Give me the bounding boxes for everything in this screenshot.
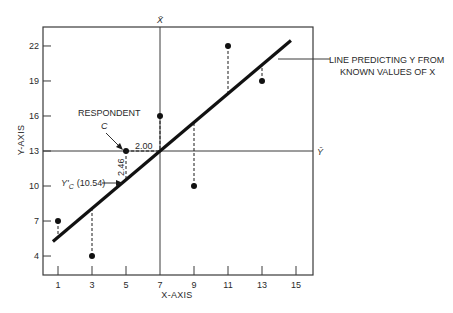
y-tick-label: 19	[29, 76, 39, 86]
respondent-id-label: C	[101, 121, 108, 131]
y-tick-label: 16	[29, 111, 39, 121]
y-tick-label: 7	[34, 216, 39, 226]
x-tick-label: 3	[89, 280, 94, 290]
data-point	[55, 218, 61, 224]
data-point	[225, 43, 231, 49]
data-point	[89, 253, 95, 259]
scatter-regression-chart: 471013161922 13579111315 X̄ Ȳ RESPONDENT…	[0, 0, 453, 313]
x-tick-label: 1	[55, 280, 60, 290]
regression-label-line1: LINE PREDICTING Y FROM	[329, 55, 444, 65]
x-tick-label: 5	[123, 280, 128, 290]
data-point	[259, 78, 265, 84]
x-mean-label: X̄	[156, 15, 164, 25]
predicted-value-label: Y'C(10.54)	[61, 178, 105, 190]
y-axis-title: Y-AXIS	[16, 125, 26, 155]
x-axis-ticks: 13579111315	[55, 266, 301, 290]
respondent-label: RESPONDENT	[78, 108, 141, 118]
x-tick-label: 9	[191, 280, 196, 290]
predicted-value: (10.54)	[77, 178, 106, 188]
regression-label-line2: KNOWN VALUES OF X	[340, 67, 435, 77]
x-tick-label: 15	[291, 280, 301, 290]
y-mean-label: Ȳ	[317, 147, 324, 157]
y-tick-label: 22	[29, 41, 39, 51]
x-tick-label: 13	[257, 280, 267, 290]
x-distance-label: 2.00	[135, 141, 153, 151]
y-distance-label: 2.46	[116, 158, 126, 176]
data-point	[157, 113, 163, 119]
x-tick-label: 11	[223, 280, 232, 290]
x-tick-label: 7	[157, 280, 162, 290]
y-tick-label: 13	[29, 146, 39, 156]
regression-line	[53, 40, 291, 241]
data-point	[191, 183, 197, 189]
predicted-subscript: C	[69, 183, 75, 190]
y-tick-label: 4	[34, 251, 39, 261]
y-tick-label: 10	[29, 181, 39, 191]
x-axis-title: X-AXIS	[161, 290, 192, 300]
